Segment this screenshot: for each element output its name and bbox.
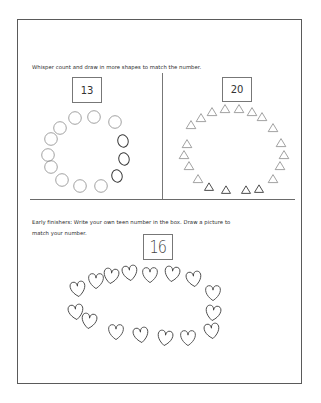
drawn-triangle-icon <box>222 186 231 194</box>
drawn-triangle-icon <box>242 186 251 194</box>
triangle-icon <box>220 105 230 113</box>
heart-icon <box>70 281 87 298</box>
drawn-circle-icon <box>110 169 123 184</box>
heart-icon <box>68 304 85 321</box>
triangle-icon <box>193 175 203 183</box>
heart-icon <box>109 325 124 340</box>
triangle-icon <box>182 140 192 148</box>
circle-icon <box>69 112 82 125</box>
heart-icon <box>89 274 104 289</box>
heart-icon <box>103 268 120 285</box>
heart-icon <box>133 327 150 344</box>
triangle-icon <box>234 105 244 113</box>
circle-icon <box>109 116 122 129</box>
triangle-icon <box>268 175 278 183</box>
triangle-icon <box>184 162 194 170</box>
triangle-icon <box>207 108 217 116</box>
shapes-layer <box>0 0 321 403</box>
heart-icon <box>122 265 139 282</box>
drawn-triangle-icon <box>205 183 214 191</box>
circle-icon <box>42 149 55 162</box>
triangle-icon <box>179 151 189 159</box>
circle-icon <box>74 180 87 193</box>
circle-icon <box>95 180 108 193</box>
drawn-triangle-icon <box>255 185 264 193</box>
triangle-icon <box>275 162 285 170</box>
circle-icon <box>88 111 101 124</box>
heart-icon <box>186 271 203 288</box>
triangle-icon <box>276 139 286 147</box>
heart-icon <box>164 266 181 283</box>
heart-icon <box>204 323 221 340</box>
heart-icon <box>143 268 158 283</box>
heart-icon <box>157 330 174 347</box>
circle-icon <box>54 122 67 135</box>
heart-icon <box>81 313 98 330</box>
circle-icon <box>45 161 58 174</box>
drawn-circle-icon <box>117 152 130 167</box>
triangle-icon <box>196 114 206 122</box>
heart-icon <box>206 286 221 301</box>
triangle-icon <box>247 108 257 116</box>
worksheet-page: Whisper count and draw in more shapes to… <box>0 0 321 403</box>
heart-icon <box>181 331 196 346</box>
triangle-icon <box>279 151 289 159</box>
triangle-icon <box>268 124 278 132</box>
circle-icon <box>56 174 69 187</box>
circle-icon <box>45 133 58 146</box>
triangle-icon <box>186 121 196 129</box>
heart-icon <box>205 305 222 322</box>
triangle-icon <box>257 113 267 121</box>
drawn-circle-icon <box>116 134 129 149</box>
